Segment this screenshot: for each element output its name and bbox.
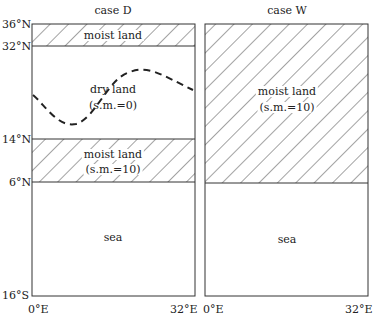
panel-case-w [205,24,368,296]
region-label-sea-d: sea [104,232,123,243]
x-tick-0e-w: 0°E [203,304,224,315]
region-label-moist-middle: moist land [82,149,144,160]
diagram-canvas [0,0,375,318]
region-sub-moist-middle: (s.m.=10) [84,164,143,175]
y-tick-14n: 14°N [2,134,31,145]
region-label-moist-north: moist land [82,30,144,41]
x-tick-0e-d: 0°E [28,304,49,315]
region-sub-moist-w: (s.m.=10) [258,102,317,113]
dry-land-boundary-dashed-curve [33,70,193,125]
region-sub-dry-land: (s.m.=0) [89,100,137,111]
x-tick-32e-w: 32°E [345,304,373,315]
region-label-dry-land: dry land [90,84,136,95]
x-tick-32e-d: 32°E [170,304,198,315]
y-tick-36n: 36°N [2,19,31,30]
region-label-moist-w: moist land [256,86,318,97]
y-tick-16s: 16°S [2,290,29,301]
y-tick-32n: 32°N [2,41,31,52]
panel-w-title: case W [267,5,307,16]
panel-d-title: case D [94,5,131,16]
region-label-sea-w: sea [278,234,297,245]
y-tick-6n: 6°N [9,177,31,188]
